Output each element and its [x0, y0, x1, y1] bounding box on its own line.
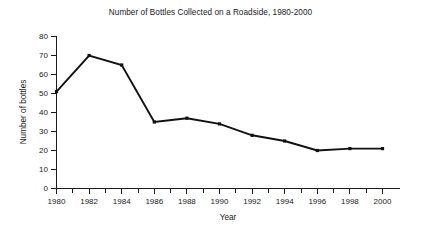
line-chart-plot: 01020304050607080 1980198219841986198819…	[0, 0, 421, 233]
y-tick-label-30: 30	[39, 127, 48, 136]
data-point-1998	[348, 147, 351, 150]
x-tick-label-1996: 1996	[308, 197, 326, 206]
data-point-1980	[55, 90, 58, 93]
data-series-line	[57, 56, 383, 151]
x-tick-label-1984: 1984	[113, 197, 131, 206]
x-tick-label-1994: 1994	[276, 197, 294, 206]
y-axis-title: Number of bottles	[19, 80, 28, 145]
data-point-1986	[153, 120, 156, 123]
x-tick-label-1982: 1982	[80, 197, 98, 206]
chart-container: Number of Bottles Collected on a Roadsid…	[0, 0, 421, 233]
x-axis-ticks: 1980198219841986198819901992199419961998…	[48, 189, 392, 207]
y-tick-label-60: 60	[39, 70, 48, 79]
data-point-2000	[381, 147, 384, 150]
x-tick-label-2000: 2000	[374, 197, 392, 206]
data-point-1988	[185, 117, 188, 120]
x-tick-label-1992: 1992	[243, 197, 261, 206]
x-tick-label-1988: 1988	[178, 197, 196, 206]
y-tick-label-10: 10	[39, 165, 48, 174]
y-tick-label-40: 40	[39, 108, 48, 117]
data-series-markers	[55, 54, 384, 152]
y-tick-label-0: 0	[44, 184, 49, 193]
x-tick-label-1998: 1998	[341, 197, 359, 206]
data-point-1994	[283, 139, 286, 142]
x-tick-label-1980: 1980	[48, 197, 66, 206]
y-tick-label-70: 70	[39, 51, 48, 60]
y-tick-label-80: 80	[39, 32, 48, 41]
x-tick-label-1990: 1990	[211, 197, 229, 206]
x-tick-label-1986: 1986	[145, 197, 163, 206]
data-point-1992	[251, 134, 254, 137]
y-axis-ticks: 01020304050607080	[39, 32, 56, 193]
y-tick-label-20: 20	[39, 146, 48, 155]
data-point-1990	[218, 122, 221, 125]
data-point-1984	[120, 63, 123, 66]
data-point-1996	[316, 149, 319, 152]
x-axis-title: Year	[220, 213, 237, 222]
y-tick-label-50: 50	[39, 89, 48, 98]
data-point-1982	[88, 54, 91, 57]
